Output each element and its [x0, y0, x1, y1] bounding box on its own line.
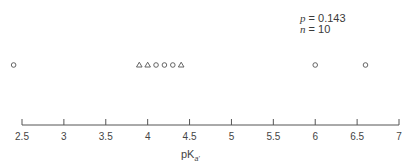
- circle-marker: [313, 63, 318, 68]
- x-tick-label: 5.5: [266, 131, 280, 142]
- x-tick-label: 6: [312, 131, 318, 142]
- x-axis-label-main: pK: [181, 148, 194, 160]
- n-label: n: [300, 23, 306, 35]
- x-tick-label: 7: [396, 131, 402, 142]
- x-tick-label: 2.5: [15, 131, 29, 142]
- circle-marker: [162, 63, 167, 68]
- data-points: [11, 62, 367, 67]
- n-annotation: n = 10: [300, 24, 330, 35]
- n-value: = 10: [309, 23, 331, 35]
- circle-marker: [154, 63, 159, 68]
- x-tick-label: 4: [145, 131, 151, 142]
- triangle-marker: [178, 62, 184, 67]
- x-tick-label: 6.5: [350, 131, 364, 142]
- x-tick-label: 3: [61, 131, 67, 142]
- x-tick-label: 4.5: [183, 131, 197, 142]
- triangle-marker: [136, 62, 142, 67]
- triangle-marker: [145, 62, 151, 67]
- x-tick-label: 3.5: [99, 131, 113, 142]
- x-axis-label: pKa': [181, 148, 200, 162]
- circle-marker: [171, 63, 176, 68]
- x-axis-ticks: [22, 119, 399, 125]
- circle-marker: [11, 63, 16, 68]
- circle-marker: [363, 63, 368, 68]
- x-axis-label-subscript: a': [194, 155, 199, 162]
- x-tick-label: 5: [229, 131, 235, 142]
